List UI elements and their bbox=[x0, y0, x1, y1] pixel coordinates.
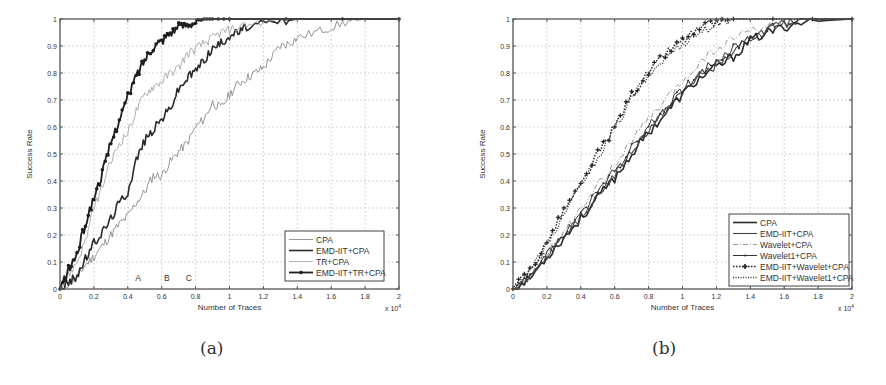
chart-a-success-rate: 00.20.40.60.811.21.41.61.8200.10.20.30.4… bbox=[0, 0, 443, 330]
svg-text:0.6: 0.6 bbox=[610, 293, 620, 300]
legend-entry-tr-cpa: TR+CPA bbox=[316, 257, 349, 267]
svg-text:2: 2 bbox=[850, 293, 854, 300]
svg-text:0.2: 0.2 bbox=[47, 232, 57, 239]
svg-text:1.6: 1.6 bbox=[326, 293, 336, 300]
svg-text:0.8: 0.8 bbox=[191, 293, 201, 300]
svg-text:1: 1 bbox=[228, 293, 232, 300]
x-multiplier-label: x 104 bbox=[385, 303, 401, 312]
svg-text:0: 0 bbox=[58, 293, 62, 300]
caption-a: (a) bbox=[200, 338, 223, 358]
svg-text:0.6: 0.6 bbox=[500, 124, 510, 131]
svg-text:1.2: 1.2 bbox=[259, 293, 269, 300]
svg-text:0.3: 0.3 bbox=[47, 205, 57, 212]
svg-text:0: 0 bbox=[506, 286, 510, 293]
svg-text:0: 0 bbox=[53, 286, 57, 293]
svg-text:0.6: 0.6 bbox=[47, 124, 57, 131]
annotation-a: A bbox=[135, 273, 141, 283]
legend-entry-emd-iit-wavelet1-cpa: EMD-IIT+Wavelet1+CPA bbox=[760, 273, 854, 283]
svg-text:1.4: 1.4 bbox=[745, 293, 755, 300]
svg-text:1.8: 1.8 bbox=[360, 293, 370, 300]
y-axis-label: Success Rate bbox=[478, 129, 487, 179]
svg-text:0.8: 0.8 bbox=[500, 70, 510, 77]
svg-text:0.4: 0.4 bbox=[576, 293, 586, 300]
svg-text:0.7: 0.7 bbox=[47, 97, 57, 104]
svg-text:0.2: 0.2 bbox=[89, 293, 99, 300]
svg-text:0.8: 0.8 bbox=[644, 293, 654, 300]
svg-text:0.6: 0.6 bbox=[157, 293, 167, 300]
legend: CPAEMD-IIT+CPAWavelet+CPAWavelet1+CPAEMD… bbox=[729, 214, 854, 286]
x-axis-label: Number of Traces bbox=[651, 303, 715, 312]
legend-entry-wavelet-cpa: Wavelet+CPA bbox=[760, 240, 813, 250]
svg-text:0.4: 0.4 bbox=[47, 178, 57, 185]
svg-text:1.6: 1.6 bbox=[779, 293, 789, 300]
annotation-b: B bbox=[164, 273, 170, 283]
svg-text:0.8: 0.8 bbox=[47, 70, 57, 77]
svg-text:0.1: 0.1 bbox=[47, 259, 57, 266]
figure: 00.20.40.60.811.21.41.61.8200.10.20.30.4… bbox=[0, 0, 886, 385]
legend-entry-emd-iit-cpa: EMD-IIT+CPA bbox=[316, 246, 370, 256]
svg-text:1: 1 bbox=[53, 16, 57, 23]
annotation-c: C bbox=[186, 273, 192, 283]
legend-entry-wavelet1-cpa: Wavelet1+CPA bbox=[760, 251, 817, 261]
svg-text:1.8: 1.8 bbox=[813, 293, 823, 300]
x-multiplier-label: x 104 bbox=[838, 303, 854, 312]
caption-b: (b) bbox=[652, 338, 676, 358]
svg-text:2: 2 bbox=[397, 293, 401, 300]
svg-text:0.5: 0.5 bbox=[500, 151, 510, 158]
svg-text:0.7: 0.7 bbox=[500, 97, 510, 104]
svg-text:0: 0 bbox=[511, 293, 515, 300]
svg-text:0.9: 0.9 bbox=[500, 43, 510, 50]
legend-entry-emd-iit-tr-cpa: EMD-IIT+TR+CPA bbox=[316, 268, 386, 278]
chart-b-success-rate: 00.20.40.60.811.21.41.61.8200.10.20.30.4… bbox=[443, 0, 886, 330]
svg-text:1: 1 bbox=[506, 16, 510, 23]
svg-text:0.2: 0.2 bbox=[542, 293, 552, 300]
svg-text:0.9: 0.9 bbox=[47, 43, 57, 50]
svg-text:0.4: 0.4 bbox=[500, 178, 510, 185]
svg-text:0.5: 0.5 bbox=[47, 151, 57, 158]
svg-text:1.4: 1.4 bbox=[292, 293, 302, 300]
y-axis-label: Success Rate bbox=[25, 129, 34, 179]
svg-text:0.4: 0.4 bbox=[123, 293, 133, 300]
x-axis-label: Number of Traces bbox=[198, 303, 262, 312]
annotations: ABC bbox=[135, 273, 192, 283]
legend: CPAEMD-IIT+CPATR+CPAEMD-IIT+TR+CPA bbox=[285, 231, 386, 281]
legend-entry-emd-iit-wavelet-cpa: EMD-IIT+Wavelet+CPA bbox=[760, 262, 849, 272]
svg-text:1: 1 bbox=[681, 293, 685, 300]
svg-text:0.3: 0.3 bbox=[500, 205, 510, 212]
svg-text:0.1: 0.1 bbox=[500, 259, 510, 266]
svg-text:1.2: 1.2 bbox=[712, 293, 722, 300]
svg-text:0.2: 0.2 bbox=[500, 232, 510, 239]
legend-entry-cpa: CPA bbox=[316, 235, 333, 245]
legend-entry-cpa: CPA bbox=[760, 218, 777, 228]
legend-entry-emd-iit-cpa: EMD-IIT+CPA bbox=[760, 229, 814, 239]
